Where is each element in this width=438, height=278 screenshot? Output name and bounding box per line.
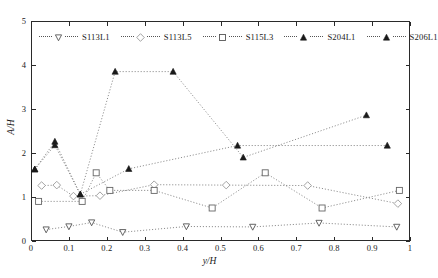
legend-symbol-S113L5 (137, 33, 145, 41)
x-tick-5-top (221, 22, 222, 26)
x-tick-6-top (258, 22, 259, 26)
y-tick-0-left (32, 241, 36, 242)
x-tick-9-bottom (372, 237, 373, 241)
legend-marker-triangle-up-filled (382, 33, 391, 42)
x-tick-8-top (334, 22, 335, 26)
x-tick-label-10: 1 (395, 243, 425, 253)
legend-label-S113L1: S113L1 (82, 32, 110, 42)
plot-area (31, 21, 410, 241)
legend-marker-diamond-open (136, 33, 145, 42)
y-axis-title: A/H (6, 107, 16, 147)
legend-symbol-S113L1 (55, 34, 61, 40)
x-axis-title: y/H (0, 256, 419, 266)
y-tick-5-right (406, 21, 410, 22)
y-tick-2-right (406, 153, 410, 154)
y-tick-label-5: 5 (6, 16, 26, 26)
x-tick-0-bottom (31, 237, 32, 241)
legend-label-S115L3: S115L3 (246, 32, 274, 42)
x-tick-label-8: 0.8 (319, 243, 349, 253)
y-tick-1-right (406, 197, 410, 198)
legend-marker-square-open (218, 33, 227, 42)
legend-symbol-S204L1 (301, 34, 307, 40)
y-tick-label-2: 2 (6, 148, 26, 158)
legend-symbol-S115L3 (219, 34, 225, 40)
y-tick-5-left (32, 21, 36, 22)
x-tick-4-bottom (183, 237, 184, 241)
x-tick-7-bottom (296, 237, 297, 241)
x-tick-9-top (372, 22, 373, 26)
y-tick-2-left (32, 153, 36, 154)
chart-legend: S113L1S113L5S115L3S204L1S206L1 (37, 29, 407, 45)
x-tick-2-bottom (107, 237, 108, 241)
y-tick-label-1: 1 (6, 192, 26, 202)
legend-label-S113L5: S113L5 (164, 32, 192, 42)
legend-dash-right-S113L1 (65, 36, 78, 38)
legend-item-S113L5: S113L5 (119, 32, 192, 42)
legend-item-S115L3: S115L3 (201, 32, 274, 42)
legend-dash-left-S115L3 (203, 36, 216, 38)
legend-item-S113L1: S113L1 (37, 32, 110, 42)
x-tick-5-bottom (221, 237, 222, 241)
y-tick-label-4: 4 (6, 60, 26, 70)
legend-item-S204L1: S204L1 (282, 32, 355, 42)
x-tick-label-3: 0.3 (130, 243, 160, 253)
y-tick-3-right (406, 109, 410, 110)
y-tick-4-left (32, 65, 36, 66)
y-tick-1-left (32, 197, 36, 198)
x-tick-1-bottom (69, 237, 70, 241)
x-tick-label-4: 0.4 (168, 243, 198, 253)
x-tick-label-1: 0.1 (54, 243, 84, 253)
y-tick-4-right (406, 65, 410, 66)
x-tick-7-top (296, 22, 297, 26)
legend-label-S206L1: S206L1 (410, 32, 438, 42)
legend-dash-right-S206L1 (393, 36, 406, 38)
x-tick-8-bottom (334, 237, 335, 241)
x-tick-label-6: 0.6 (243, 243, 273, 253)
x-tick-10-bottom (410, 237, 411, 241)
x-tick-6-bottom (258, 237, 259, 241)
legend-dash-left-S206L1 (367, 36, 380, 38)
x-tick-4-top (183, 22, 184, 26)
legend-item-S206L1: S206L1 (365, 32, 438, 42)
legend-dash-right-S115L3 (229, 36, 242, 38)
x-tick-3-top (145, 22, 146, 26)
x-tick-2-top (107, 22, 108, 26)
legend-label-S204L1: S204L1 (327, 32, 355, 42)
legend-dash-left-S113L1 (39, 36, 52, 38)
x-tick-3-bottom (145, 237, 146, 241)
legend-dash-right-S204L1 (310, 36, 323, 38)
y-tick-3-left (32, 109, 36, 110)
x-tick-label-7: 0.7 (281, 243, 311, 253)
legend-dash-right-S113L5 (147, 36, 160, 38)
x-tick-label-5: 0.5 (206, 243, 236, 253)
x-tick-10-top (410, 22, 411, 26)
x-tick-0-top (31, 22, 32, 26)
y-tick-label-0: 0 (6, 236, 26, 246)
legend-marker-triangle-down-open (54, 33, 63, 42)
x-tick-1-top (69, 22, 70, 26)
x-tick-label-2: 0.2 (92, 243, 122, 253)
legend-marker-triangle-up-filled (299, 33, 308, 42)
legend-dash-left-S113L5 (121, 36, 134, 38)
legend-dash-left-S204L1 (284, 36, 297, 38)
y-tick-0-right (406, 241, 410, 242)
x-tick-label-9: 0.9 (357, 243, 387, 253)
legend-symbol-S206L1 (383, 34, 389, 40)
